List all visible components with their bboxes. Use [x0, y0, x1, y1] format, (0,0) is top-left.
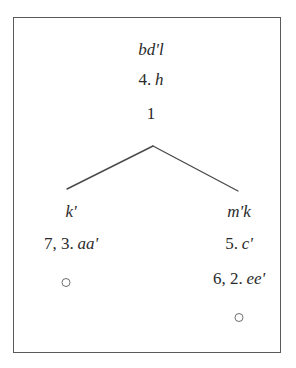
right-branch-terminal-circle-icon	[235, 313, 244, 322]
right-branch-name: m'k	[227, 203, 250, 220]
right-branch-entry-1: 5.c'	[225, 235, 253, 252]
stemma-canvas: bd'l 4.h 1 k' 7, 3.aa' m'k 5.c' 6, 2.ee'	[14, 18, 280, 352]
right-branch-entry-2: 6, 2.ee'	[213, 270, 265, 287]
root-node-number: 4.	[139, 70, 152, 89]
root-node-sigil: h	[155, 70, 164, 89]
left-branch-name: k'	[65, 203, 76, 220]
left-branch-entry-sigil: aa'	[77, 234, 98, 253]
right-branch-entry-1-sigil: c'	[242, 234, 253, 253]
right-branch-entry-2-numbers: 6, 2.	[213, 269, 243, 288]
root-node-number-sigil: 4.h	[139, 71, 164, 88]
apex-node-number: 1	[147, 105, 156, 122]
left-branch-entry-numbers: 7, 3.	[44, 234, 74, 253]
branch-line-left	[67, 146, 153, 189]
right-branch-entry-1-numbers: 5.	[225, 234, 238, 253]
root-node-name: bd'l	[138, 41, 163, 58]
figure-frame: bd'l 4.h 1 k' 7, 3.aa' m'k 5.c' 6, 2.ee'	[13, 17, 281, 353]
left-branch-entry: 7, 3.aa'	[44, 235, 98, 252]
branch-line-right	[153, 146, 238, 191]
left-branch-terminal-circle-icon	[62, 278, 71, 287]
branch-connector-lines	[14, 18, 282, 354]
right-branch-entry-2-sigil: ee'	[246, 269, 265, 288]
